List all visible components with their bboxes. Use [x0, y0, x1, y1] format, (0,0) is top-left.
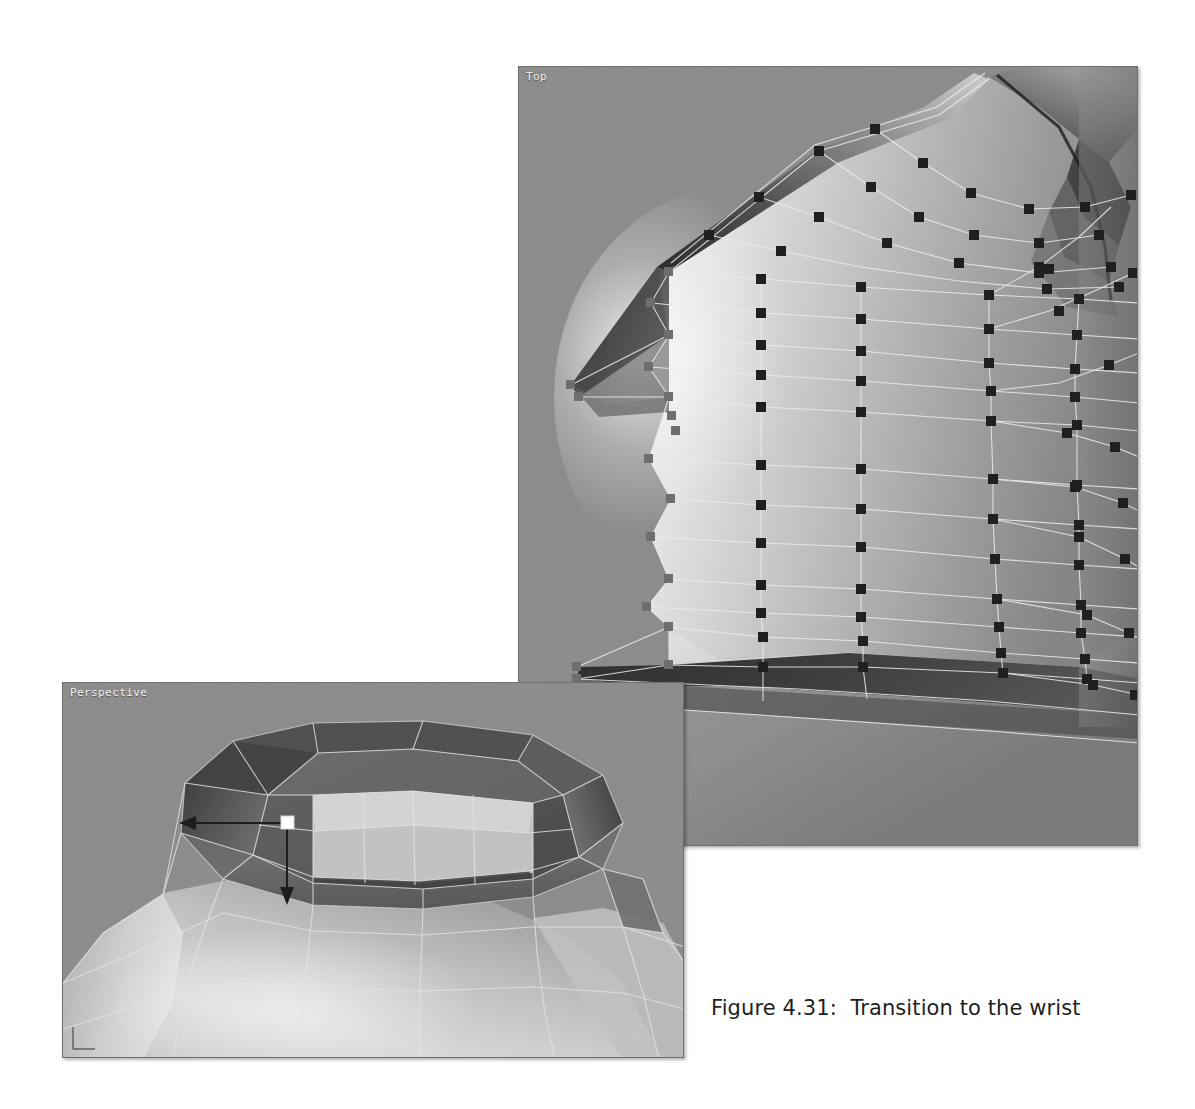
viewport-perspective[interactable]: Perspective — [62, 682, 684, 1058]
viewport-perspective-render — [63, 683, 684, 1058]
figure-caption: Figure 4.31: Transition to the wrist — [711, 996, 1081, 1020]
figure-page: Top — [0, 0, 1195, 1109]
